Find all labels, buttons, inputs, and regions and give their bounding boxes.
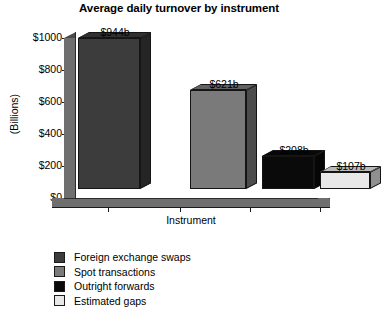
back-wall-edge	[75, 32, 76, 198]
x-axis-tick-mark	[108, 207, 109, 212]
bar-value-label: $621b	[189, 78, 259, 90]
bar-value-label: $208b	[259, 144, 329, 156]
legend-swatch	[54, 266, 65, 277]
x-axis-title: Instrument	[52, 214, 330, 226]
legend-label: Spot transactions	[74, 266, 155, 278]
legend-label: Estimated gaps	[74, 295, 146, 307]
bar-front-face	[320, 172, 370, 189]
legend-item[interactable]: Estimated gaps	[54, 294, 284, 309]
plot-area: $944b$621b$208b$107b	[64, 38, 330, 198]
y-axis-tick-label: $200	[14, 159, 62, 171]
bar-front-face	[78, 38, 140, 189]
x-axis-line	[52, 207, 330, 208]
bar-front-face	[190, 90, 246, 189]
legend-swatch	[54, 252, 65, 263]
x-axis-tick-mark	[250, 207, 251, 212]
legend-label: Foreign exchange swaps	[74, 251, 191, 263]
bar[interactable]	[78, 38, 140, 189]
y-axis-tick-label: $1000	[14, 31, 62, 43]
x-axis-tick-mark	[180, 207, 181, 212]
bar-side-face	[140, 32, 151, 189]
floor-slab-left	[52, 198, 64, 207]
legend-item[interactable]: Foreign exchange swaps	[54, 250, 284, 265]
y-axis-tick-label: $400	[14, 127, 62, 139]
bar-value-label: $944b	[80, 26, 150, 38]
bar-front-face	[262, 156, 314, 189]
legend-item[interactable]: Spot transactions	[54, 265, 284, 280]
x-axis-tick-mark	[320, 207, 321, 212]
y-axis-tick-label: $600	[14, 95, 62, 107]
floor-slab-right-wedge	[318, 198, 330, 207]
bar[interactable]	[320, 172, 370, 189]
legend-item[interactable]: Outright forwards	[54, 279, 284, 294]
bar[interactable]	[262, 156, 314, 189]
y-axis-tick-label: $800	[14, 63, 62, 75]
legend-swatch	[54, 295, 65, 306]
bar-value-label: $107b	[316, 160, 386, 172]
bar[interactable]	[190, 90, 246, 189]
legend-swatch	[54, 281, 65, 292]
bar-side-face	[246, 84, 257, 189]
chart-legend: Foreign exchange swapsSpot transactionsO…	[54, 250, 284, 308]
legend-label: Outright forwards	[74, 280, 155, 292]
